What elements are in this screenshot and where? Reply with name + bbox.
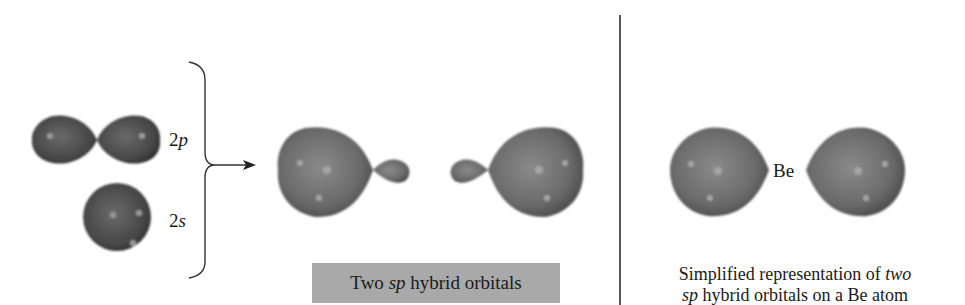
label-2s: 2s — [169, 210, 186, 232]
caption-text-after: hybrid orbitals — [406, 272, 522, 294]
caption-text-italic: sp — [389, 272, 406, 294]
simplified-representation-caption: Simplified representation of two sp hybr… — [630, 264, 960, 305]
caption-text-before: Two — [350, 272, 388, 294]
2p-orbital-icon — [32, 115, 160, 163]
caption-line-2: sp hybrid orbitals on a Be atom — [630, 285, 960, 305]
panel-divider — [619, 15, 621, 305]
brace-arrow-icon — [189, 62, 248, 278]
label-2p-number: 2 — [169, 129, 179, 150]
label-2s-number: 2 — [169, 210, 179, 231]
2s-orbital-icon — [83, 183, 151, 251]
be-atom-label: Be — [773, 160, 794, 182]
caption-line-1-text: Simplified representation of — [679, 264, 885, 284]
caption-line-1: Simplified representation of two — [630, 264, 960, 285]
label-2p: 2p — [169, 129, 188, 151]
label-2p-letter: p — [179, 129, 189, 150]
caption-line-1-italic: two — [885, 264, 911, 284]
caption-line-2-italic: sp — [682, 285, 698, 305]
caption-line-2-text: hybrid orbitals on a Be atom — [698, 285, 908, 305]
orbital-diagram — [0, 0, 965, 305]
label-2s-letter: s — [179, 210, 186, 231]
hybrid-orbitals-caption: Two sp hybrid orbitals — [312, 263, 560, 303]
sp-hybrid-orbitals-icon — [278, 127, 584, 217]
